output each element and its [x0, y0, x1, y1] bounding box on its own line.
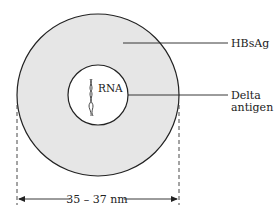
arrowhead-right-icon	[171, 196, 178, 202]
rna-label: RNA	[98, 82, 123, 94]
core-circle	[68, 65, 128, 125]
arrowhead-left-icon	[18, 196, 25, 202]
diameter-label: 35 – 37 nm	[66, 193, 128, 206]
hdv-diagram: RNA HBsAg Delta antigen 35 – 37 nm	[0, 0, 278, 219]
core-label-line2: antigen	[231, 101, 273, 114]
envelope-label: HBsAg	[231, 37, 269, 50]
